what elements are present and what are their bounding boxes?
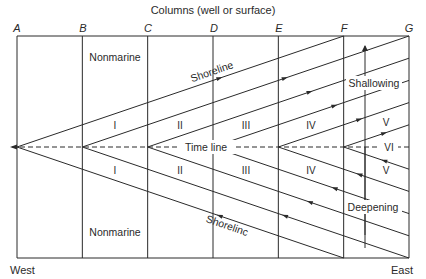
unit-label-lower: V	[383, 165, 390, 176]
time-line-arrow-icon	[10, 145, 17, 150]
column-label: C	[144, 22, 152, 34]
column-label: A	[12, 22, 20, 34]
direction-arrow-icon	[381, 130, 388, 136]
west-label: West	[10, 264, 35, 276]
column-label: G	[405, 22, 414, 34]
units-upper: I II III IV V	[114, 117, 390, 131]
unit-label-lower: IV	[306, 165, 316, 176]
direction-arrow-icon	[306, 89, 313, 95]
shoreline-bottom-label: Shorelinc	[205, 212, 250, 238]
column-label: E	[275, 22, 283, 34]
column-label: D	[210, 22, 218, 34]
direction-arrow-icon	[356, 172, 363, 178]
nonmarine-bottom-label: Nonmarine	[89, 226, 141, 238]
direction-arrow-icon	[381, 158, 388, 164]
lower-diagonal-a	[17, 147, 344, 258]
nonmarine-top-label: Nonmarine	[89, 51, 141, 63]
diagram-title: Columns (well or surface)	[151, 4, 276, 16]
unit-label-upper: IV	[306, 120, 316, 131]
shallowing-label: Shallowing	[349, 77, 400, 89]
upper-diagonal-d	[213, 80, 409, 147]
direction-arrow-icon	[216, 75, 223, 81]
unit-label-upper: I	[114, 120, 117, 131]
shoreline-top-label: Shoreline	[189, 58, 235, 84]
column-label: F	[341, 22, 349, 34]
column-label: B	[79, 22, 86, 34]
column-labels: A B C D E F G	[12, 22, 413, 34]
direction-arrow-icon	[331, 185, 338, 191]
east-label: East	[391, 264, 413, 276]
unit-label-upper: II	[177, 120, 183, 131]
lower-diagonal-f	[344, 147, 409, 169]
unit-label-lower: III	[242, 165, 250, 176]
unit-label-upper: V	[383, 117, 390, 128]
upper-diagonal-f	[344, 125, 409, 147]
direction-arrow-icon	[356, 117, 363, 123]
direction-arrow-icon	[281, 213, 288, 219]
unit-label-lower: II	[177, 165, 183, 176]
unit-label-upper: III	[242, 120, 250, 131]
direction-arrow-icon	[281, 75, 288, 81]
deepening-label: Deepening	[348, 201, 399, 213]
unit-vi-label: VI	[384, 142, 393, 153]
direction-arrow-icon	[306, 199, 313, 205]
time-line-label: Time line	[185, 141, 227, 153]
unit-label-lower: I	[114, 165, 117, 176]
stratigraphic-cross-section: Columns (well or surface) Time line Shal…	[0, 0, 426, 279]
direction-arrow-icon	[331, 103, 338, 109]
